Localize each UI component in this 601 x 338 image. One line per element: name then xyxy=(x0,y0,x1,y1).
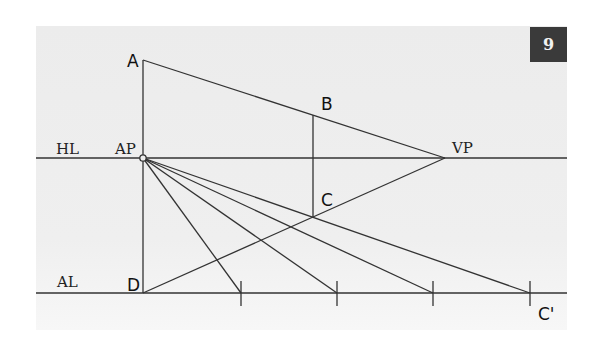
label-al: AL xyxy=(56,273,78,291)
label-vp: VP xyxy=(451,139,473,157)
label-hl: HL xyxy=(56,140,79,158)
ray-ap-tick-4 xyxy=(143,158,530,293)
perspective-diagram: HL AL AP VP A B C D C' xyxy=(0,0,601,338)
label-d: D xyxy=(127,275,140,295)
auxiliary-point-marker xyxy=(140,155,146,161)
ray-ap-tick-1 xyxy=(143,158,241,293)
label-ap: AP xyxy=(114,140,136,158)
line-d-vp xyxy=(143,158,445,293)
label-c-prime: C' xyxy=(538,304,555,324)
label-a: A xyxy=(127,51,139,71)
label-b: B xyxy=(321,94,333,114)
line-a-vp xyxy=(143,60,445,158)
ray-ap-tick-2 xyxy=(143,158,337,293)
ray-ap-tick-3 xyxy=(143,158,433,293)
figure-number-badge: 9 xyxy=(530,27,567,62)
label-c: C xyxy=(321,190,333,210)
